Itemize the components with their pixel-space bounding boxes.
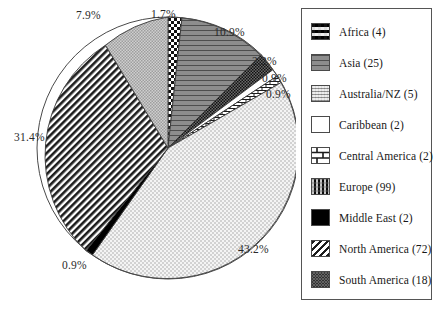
pie-chart-figure: 1.7% 10.9% 2.2% 0.9% 0.9% 43.2% 0.9% 31.… bbox=[0, 0, 439, 310]
legend-swatch-africa-icon bbox=[311, 23, 330, 40]
pct-label-africa: 1.7% bbox=[151, 8, 176, 20]
legend-swatch-north-america-icon bbox=[311, 240, 330, 257]
pct-label-australia-nz: 2.2% bbox=[252, 55, 277, 67]
legend-label-middle-east: Middle East (2) bbox=[339, 212, 413, 224]
legend-item-africa: Africa (4) bbox=[311, 16, 431, 47]
legend-item-south-america: South America (18) bbox=[311, 264, 431, 295]
pct-label-north-america: 31.4% bbox=[14, 131, 45, 143]
pct-label-caribbean: 0.9% bbox=[262, 72, 287, 84]
legend-label-australia-nz: Australia/NZ (5) bbox=[339, 88, 418, 100]
legend-swatch-asia-icon bbox=[311, 54, 330, 71]
legend-label-africa: Africa (4) bbox=[339, 26, 386, 38]
legend-item-europe: Europe (99) bbox=[311, 171, 431, 202]
legend-item-asia: Asia (25) bbox=[311, 47, 431, 78]
pct-label-south-america: 7.9% bbox=[76, 9, 101, 21]
legend-label-north-america: North America (72) bbox=[339, 243, 432, 255]
pct-label-europe: 43.2% bbox=[238, 243, 269, 255]
legend-label-europe: Europe (99) bbox=[339, 181, 395, 193]
legend-swatch-south-america-icon bbox=[311, 271, 330, 288]
legend-swatch-middle-east-icon bbox=[311, 209, 330, 226]
pie-plot-area: 1.7% 10.9% 2.2% 0.9% 0.9% 43.2% 0.9% 31.… bbox=[0, 0, 296, 310]
legend-swatch-australia-nz-icon bbox=[311, 85, 330, 102]
pct-label-asia: 10.9% bbox=[214, 26, 245, 38]
legend-swatch-caribbean-icon bbox=[311, 116, 330, 133]
legend-item-middle-east: Middle East (2) bbox=[311, 202, 431, 233]
legend-item-central-america: Central America (2) bbox=[311, 140, 431, 171]
legend-swatch-europe-icon bbox=[311, 178, 330, 195]
legend-label-central-america: Central America (2) bbox=[339, 150, 433, 162]
legend-item-north-america: North America (72) bbox=[311, 233, 431, 264]
pct-label-middle-east: 0.9% bbox=[62, 259, 87, 271]
legend-box: Africa (4) Asia (25) Australia/NZ (5) Ca… bbox=[301, 8, 432, 300]
legend-label-asia: Asia (25) bbox=[339, 57, 383, 69]
legend-swatch-central-america-icon bbox=[311, 147, 330, 164]
pct-label-central-america: 0.9% bbox=[266, 88, 291, 100]
legend-label-caribbean: Caribbean (2) bbox=[339, 119, 404, 131]
legend-label-south-america: South America (18) bbox=[339, 274, 432, 286]
legend-item-australia-nz: Australia/NZ (5) bbox=[311, 78, 431, 109]
legend-item-caribbean: Caribbean (2) bbox=[311, 109, 431, 140]
pie-svg bbox=[0, 0, 296, 310]
